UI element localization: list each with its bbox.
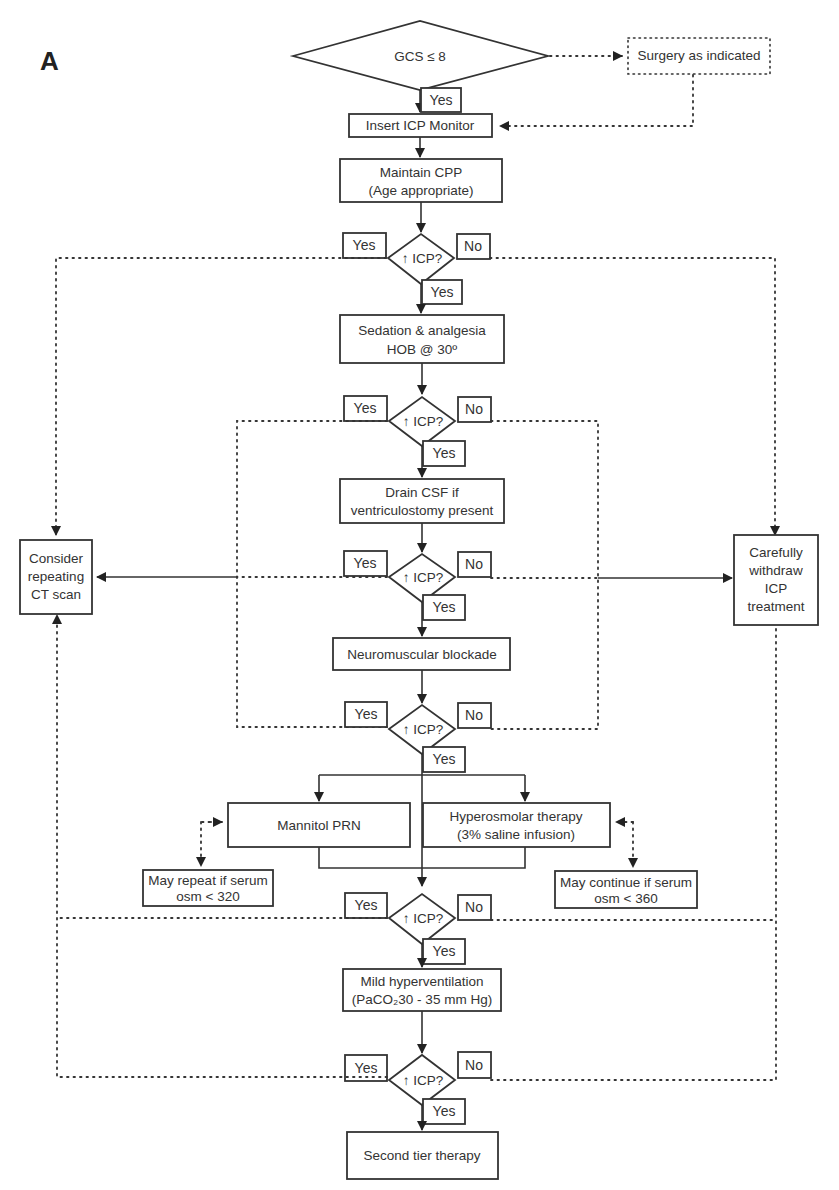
- sedation-box: Sedation & analgesia HOB @ 30º: [340, 315, 504, 363]
- svg-text:Yes: Yes: [354, 400, 377, 416]
- drain-csf-box: Drain CSF if ventriculostomy present: [340, 479, 504, 523]
- svg-text:↑ ICP?: ↑ ICP?: [402, 251, 443, 266]
- svg-text:Neuromuscular blockade: Neuromuscular blockade: [347, 647, 496, 662]
- icp-decision-1: ↑ ICP?: [388, 234, 454, 284]
- svg-text:Yes: Yes: [354, 555, 377, 571]
- svg-text:Yes: Yes: [430, 92, 453, 108]
- yes-label: Yes: [421, 88, 461, 112]
- svg-text:CT scan: CT scan: [31, 587, 81, 602]
- svg-text:ventriculostomy present: ventriculostomy present: [351, 503, 494, 518]
- yes-label: Yes: [423, 939, 465, 964]
- svg-text:↑ ICP?: ↑ ICP?: [403, 911, 444, 926]
- svg-text:Surgery as indicated: Surgery as indicated: [637, 48, 760, 63]
- svg-text:Second tier therapy: Second tier therapy: [363, 1148, 480, 1163]
- no-label: No: [457, 234, 490, 259]
- svg-text:repeating: repeating: [28, 569, 84, 584]
- svg-text:withdraw: withdraw: [748, 563, 803, 578]
- yes-label: Yes: [423, 1099, 465, 1124]
- svg-text:↑ ICP?: ↑ ICP?: [403, 1073, 444, 1088]
- surgery-box: Surgery as indicated: [628, 38, 770, 74]
- svg-text:(3% saline infusion): (3% saline infusion): [457, 827, 575, 842]
- svg-text:Yes: Yes: [353, 237, 376, 253]
- no-label: No: [458, 1052, 491, 1078]
- hyperventilation-box: Mild hyperventilation (PaCO₂30 - 35 mm H…: [343, 969, 501, 1011]
- no-label: No: [458, 552, 491, 577]
- svg-text:Hyperosmolar therapy: Hyperosmolar therapy: [450, 809, 583, 824]
- svg-text:No: No: [465, 401, 483, 417]
- svg-text:(PaCO₂30 - 35 mm Hg): (PaCO₂30 - 35 mm Hg): [352, 992, 492, 1007]
- yes-label: Yes: [344, 551, 387, 576]
- svg-text:Carefully: Carefully: [749, 545, 803, 560]
- second-tier-therapy-box: Second tier therapy: [347, 1132, 498, 1179]
- svg-text:ICP: ICP: [765, 581, 788, 596]
- yes-label: Yes: [345, 893, 387, 918]
- svg-text:Yes: Yes: [433, 943, 456, 959]
- may-continue-box: May continue if serum osm < 360: [555, 871, 697, 908]
- insert-icp-monitor-box: Insert ICP Monitor: [349, 114, 492, 137]
- svg-text:No: No: [464, 238, 482, 254]
- withdraw-treatment-box: Carefully withdraw ICP treatment: [734, 535, 818, 625]
- yes-label: Yes: [345, 702, 387, 727]
- gcs-decision: GCS ≤ 8: [293, 21, 548, 90]
- yes-label: Yes: [423, 747, 465, 772]
- maintain-cpp-box: Maintain CPP (Age appropriate): [340, 159, 502, 202]
- dotted-loop: [491, 421, 598, 729]
- no-label: No: [458, 397, 491, 422]
- panel-label: A: [40, 46, 59, 76]
- yes-label: Yes: [422, 280, 462, 304]
- svg-text:Yes: Yes: [355, 706, 378, 722]
- svg-text:osm < 360: osm < 360: [594, 891, 657, 906]
- svg-text:↑ ICP?: ↑ ICP?: [403, 722, 444, 737]
- icp-decision-5: ↑ ICP?: [389, 894, 455, 944]
- yes-label: Yes: [343, 233, 386, 258]
- svg-text:treatment: treatment: [747, 599, 804, 614]
- svg-text:↑ ICP?: ↑ ICP?: [403, 414, 444, 429]
- icp-management-flowchart: A GCS ≤ 8 Surgery as indicated Yes Inser…: [0, 0, 839, 1190]
- yes-label: Yes: [423, 595, 465, 620]
- svg-text:No: No: [465, 899, 483, 915]
- svg-text:osm < 320: osm < 320: [176, 889, 239, 904]
- no-label: No: [458, 703, 491, 728]
- svg-text:Drain CSF if: Drain CSF if: [385, 485, 459, 500]
- hyperosmolar-box: Hyperosmolar therapy (3% saline infusion…: [423, 803, 610, 847]
- svg-text:May continue if serum: May continue if serum: [560, 875, 692, 890]
- icp-decision-6: ↑ ICP?: [389, 1055, 455, 1105]
- svg-text:Mannitol PRN: Mannitol PRN: [277, 818, 360, 833]
- svg-text:May repeat if serum: May repeat if serum: [148, 873, 267, 888]
- svg-text:(Age appropriate): (Age appropriate): [368, 183, 473, 198]
- svg-text:HOB @ 30º: HOB @ 30º: [387, 342, 457, 357]
- svg-text:Insert ICP Monitor: Insert ICP Monitor: [366, 118, 475, 133]
- svg-text:Mild hyperventilation: Mild hyperventilation: [360, 974, 483, 989]
- dotted-arrow: [490, 258, 775, 535]
- svg-text:No: No: [465, 707, 483, 723]
- svg-text:Yes: Yes: [431, 284, 454, 300]
- svg-text:No: No: [465, 1057, 483, 1073]
- may-repeat-box: May repeat if serum osm < 320: [143, 870, 273, 906]
- svg-text:Yes: Yes: [355, 897, 378, 913]
- svg-text:Yes: Yes: [433, 599, 456, 615]
- neuromuscular-blockade-box: Neuromuscular blockade: [333, 638, 510, 670]
- svg-text:Maintain CPP: Maintain CPP: [380, 165, 463, 180]
- svg-text:↑ ICP?: ↑ ICP?: [403, 570, 444, 585]
- svg-text:Sedation & analgesia: Sedation & analgesia: [358, 323, 486, 338]
- svg-text:Yes: Yes: [433, 1103, 456, 1119]
- svg-text:Consider: Consider: [29, 551, 84, 566]
- svg-text:No: No: [465, 556, 483, 572]
- consider-ct-box: Consider repeating CT scan: [20, 540, 92, 614]
- icp-decision-2: ↑ ICP?: [389, 397, 455, 446]
- gcs-label: GCS ≤ 8: [394, 49, 446, 64]
- yes-label: Yes: [423, 441, 465, 466]
- mannitol-box: Mannitol PRN: [228, 803, 410, 847]
- dotted-arrow: [56, 258, 386, 535]
- dotted-arrow: [500, 75, 693, 126]
- no-label: No: [458, 895, 491, 920]
- yes-label: Yes: [344, 396, 387, 421]
- svg-text:Yes: Yes: [433, 751, 456, 767]
- svg-text:Yes: Yes: [355, 1060, 378, 1076]
- svg-text:Yes: Yes: [433, 445, 456, 461]
